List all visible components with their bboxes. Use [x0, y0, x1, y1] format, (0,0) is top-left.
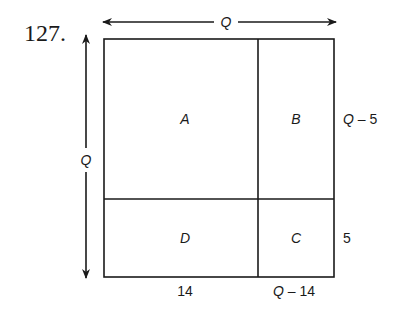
region-a-label: A — [179, 111, 189, 127]
bottom-left-label: 14 — [177, 283, 193, 299]
region-d-label: D — [180, 230, 190, 246]
square-partition-diagram: Q Q A B D C Q – 5 5 14 Q – 14 — [0, 0, 408, 309]
left-dimension-label: Q — [81, 152, 92, 168]
right-lower-label: 5 — [343, 230, 351, 246]
top-dimension-label: Q — [221, 14, 232, 30]
region-b-label: B — [291, 111, 300, 127]
bottom-right-label: Q – 14 — [273, 283, 315, 299]
region-c-label: C — [291, 230, 302, 246]
right-upper-label: Q – 5 — [343, 111, 377, 127]
